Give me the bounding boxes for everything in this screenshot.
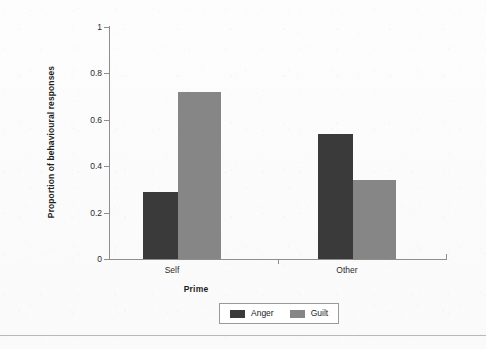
- plot-area: [110, 27, 447, 259]
- legend-item-anger: Anger: [230, 309, 274, 318]
- x-axis-mid-tick: [278, 259, 279, 264]
- bar-guilt-other: [353, 180, 396, 259]
- legend-item-guilt: Guilt: [290, 309, 328, 318]
- bar-guilt-self: [178, 92, 221, 259]
- y-tick-label-1: 1: [58, 23, 102, 32]
- legend-swatch-anger: [230, 310, 245, 318]
- y-tick-label-0: 0: [58, 255, 102, 264]
- legend-label-guilt: Guilt: [311, 309, 328, 318]
- y-tick-label-0.4: 0.4: [58, 162, 102, 171]
- x-axis-title: Prime: [0, 284, 486, 294]
- legend-swatch-guilt: [290, 310, 305, 318]
- bar-chart-figure: Proportion of behavioural responses 1 0.…: [0, 0, 486, 349]
- bar-anger-other: [318, 134, 353, 259]
- bar-anger-self: [143, 192, 178, 259]
- x-category-label-self: Self: [142, 266, 202, 275]
- legend-label-anger: Anger: [251, 309, 274, 318]
- page-divider-rule: [0, 335, 486, 336]
- x-axis-title-text: Prime: [184, 284, 209, 294]
- x-category-label-other: Other: [317, 266, 377, 275]
- y-axis-title: Proportion of behavioural responses: [46, 52, 56, 232]
- y-tick-label-0.6: 0.6: [58, 116, 102, 125]
- y-tick-label-0.2: 0.2: [58, 209, 102, 218]
- y-tick-label-0.8: 0.8: [58, 69, 102, 78]
- chart-legend: Anger Guilt: [219, 303, 339, 324]
